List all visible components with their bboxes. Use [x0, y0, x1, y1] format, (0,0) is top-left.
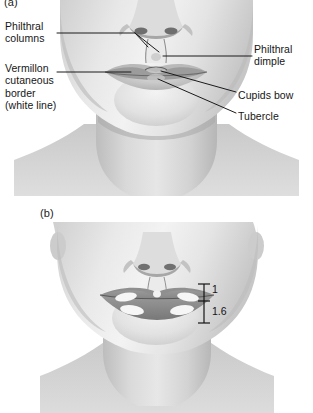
panel-b-illustration — [0, 200, 313, 413]
label-vermillon-cutaneous-border: Vermillon cutaneous border (white line) — [5, 62, 56, 112]
label-tubercle: Tubercle — [238, 110, 279, 122]
panel-b-caption: (b) — [40, 207, 54, 219]
figure-root: (a) Philthral columns Vermillon cutaneou… — [0, 0, 313, 413]
nostril-left — [135, 28, 148, 35]
label-philtral-dimple: Philthral dimple — [254, 43, 292, 68]
measurement-value-upper-lip: 1 — [212, 284, 218, 295]
panel-a-caption: (a) — [4, 0, 18, 8]
measurement-value-lower-lip: 1.6 — [212, 306, 227, 317]
panel-b: (b) 1 1.6 — [0, 200, 313, 413]
nostril-left-b — [138, 264, 150, 270]
label-cupids-bow: Cupids bow — [238, 89, 293, 101]
panel-a: (a) Philthral columns Vermillon cutaneou… — [0, 0, 313, 200]
nostril-right — [165, 28, 178, 35]
label-philtral-columns: Philthral columns — [5, 20, 44, 45]
marking-center-tubercle — [153, 291, 161, 298]
philtral-dimple-shape — [151, 53, 161, 61]
nostril-right-b — [164, 264, 176, 270]
